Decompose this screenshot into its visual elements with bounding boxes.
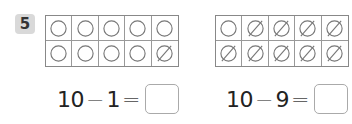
crossed-circle-icon bbox=[246, 44, 265, 63]
ten-frame-cell bbox=[269, 41, 295, 66]
ten-frame-cell bbox=[125, 41, 151, 66]
equation-1: 10 − 1 = bbox=[57, 84, 179, 114]
answer-box-2[interactable] bbox=[314, 84, 348, 114]
circle-icon bbox=[102, 19, 121, 38]
operand-a: 10 bbox=[226, 87, 253, 112]
crossed-circle-icon bbox=[325, 44, 344, 63]
ten-frame-cell bbox=[269, 16, 295, 41]
ten-frame-left bbox=[45, 15, 179, 67]
crossed-circle-icon bbox=[272, 44, 291, 63]
equation-2: 10 − 9 = bbox=[226, 84, 348, 114]
operand-b: 9 bbox=[275, 87, 289, 112]
ten-frame-cell bbox=[152, 41, 178, 66]
equals-sign: = bbox=[122, 87, 140, 112]
circle-icon bbox=[155, 19, 174, 38]
crossed-circle-icon bbox=[219, 44, 238, 63]
operand-a: 10 bbox=[57, 87, 84, 112]
problem-number-badge: 5 bbox=[15, 14, 35, 34]
circle-icon bbox=[128, 44, 147, 63]
circle-icon bbox=[49, 44, 68, 63]
circle-icon bbox=[76, 19, 95, 38]
ten-frame-cell bbox=[46, 16, 72, 41]
crossed-circle-icon bbox=[298, 19, 317, 38]
ten-frame-cell bbox=[242, 41, 268, 66]
ten-frame-cell bbox=[99, 16, 125, 41]
ten-frame-right bbox=[215, 15, 349, 67]
minus-sign: − bbox=[255, 87, 273, 112]
ten-frame-cell bbox=[125, 16, 151, 41]
ten-frame-cell bbox=[72, 41, 98, 66]
ten-frame-cell bbox=[152, 16, 178, 41]
circle-icon bbox=[219, 19, 238, 38]
crossed-circle-icon bbox=[272, 19, 291, 38]
minus-sign: − bbox=[86, 87, 104, 112]
ten-frame-cell bbox=[99, 41, 125, 66]
ten-frame-cell bbox=[72, 16, 98, 41]
ten-frame-cell bbox=[322, 41, 348, 66]
ten-frame-cell bbox=[216, 41, 242, 66]
ten-frame-cell bbox=[295, 41, 321, 66]
ten-frame-cell bbox=[216, 16, 242, 41]
circle-icon bbox=[76, 44, 95, 63]
circle-icon bbox=[49, 19, 68, 38]
crossed-circle-icon bbox=[155, 44, 174, 63]
ten-frame-cell bbox=[295, 16, 321, 41]
operand-b: 1 bbox=[106, 87, 120, 112]
equals-sign: = bbox=[291, 87, 309, 112]
ten-frame-cell bbox=[242, 16, 268, 41]
answer-box-1[interactable] bbox=[145, 84, 179, 114]
crossed-circle-icon bbox=[325, 19, 344, 38]
crossed-circle-icon bbox=[246, 19, 265, 38]
crossed-circle-icon bbox=[298, 44, 317, 63]
circle-icon bbox=[128, 19, 147, 38]
ten-frame-cell bbox=[46, 41, 72, 66]
ten-frame-cell bbox=[322, 16, 348, 41]
circle-icon bbox=[102, 44, 121, 63]
